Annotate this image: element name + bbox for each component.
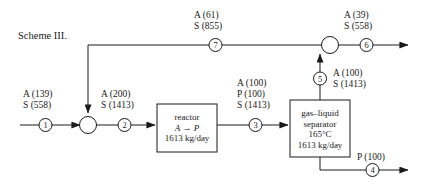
- stream-number-1: 1: [43, 120, 47, 130]
- reactor-label: reactor A → P 1613 kg/day: [157, 112, 217, 144]
- stream-number-3: 3: [253, 120, 257, 130]
- stream-label-5-line-2: S (1413): [333, 79, 366, 90]
- reactor-label-line-3: 1613 kg/day: [157, 133, 217, 144]
- stream-label-7-line-1: A (61): [194, 10, 222, 21]
- separator-label: gas–liquid separator 165°C 1613 kg/day: [288, 108, 352, 150]
- stream-label-3-line-1: A (100): [237, 78, 270, 89]
- stream-label-1: A (139) S (558): [23, 89, 52, 111]
- stream-label-6-line-2: S (558): [344, 21, 372, 32]
- stream-label-5: A (100) S (1413): [333, 68, 366, 90]
- mixer-junction: [80, 117, 97, 134]
- stream-label-6: A (39) S (558): [344, 10, 372, 32]
- stream-label-4-line-1: P (100): [357, 152, 385, 163]
- stream-label-6-line-1: A (39): [344, 10, 372, 21]
- stream-label-3-line-2: P (100): [237, 89, 270, 100]
- process-flow-diagram: Scheme III.: [0, 0, 423, 185]
- stream-number-7: 7: [213, 40, 217, 50]
- reactor-label-line-2: A → P: [157, 123, 217, 134]
- stream-label-2-line-2: S (1413): [101, 100, 134, 111]
- splitter-junction: [322, 37, 339, 54]
- stream-label-5-line-1: A (100): [333, 68, 366, 79]
- separator-label-line-1: gas–liquid: [288, 108, 352, 119]
- stream-label-1-line-2: S (558): [23, 100, 52, 111]
- stream-label-4: P (100): [357, 152, 385, 163]
- stream-label-2-line-1: A (200): [101, 89, 134, 100]
- stream-number-5: 5: [318, 74, 322, 84]
- separator-label-line-4: 1613 kg/day: [288, 140, 352, 151]
- reactor-label-line-1: reactor: [157, 112, 217, 123]
- stream-label-7-line-2: S (855): [194, 21, 222, 32]
- separator-label-line-2: separator: [288, 119, 352, 130]
- stream-label-3-line-3: S (1413): [237, 100, 270, 111]
- stream-label-2: A (200) S (1413): [101, 89, 134, 111]
- stream-number-2: 2: [122, 120, 126, 130]
- separator-label-line-3: 165°C: [288, 129, 352, 140]
- stream-label-3: A (100) P (100) S (1413): [237, 78, 270, 111]
- stream-label-1-line-1: A (139): [23, 89, 52, 100]
- stream-label-7: A (61) S (855): [194, 10, 222, 32]
- stream-number-6: 6: [364, 40, 368, 50]
